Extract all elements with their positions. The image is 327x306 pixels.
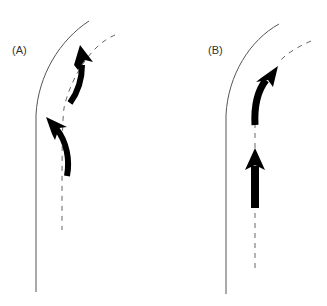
diagram-canvas (0, 0, 327, 306)
panel-b (226, 24, 311, 294)
panel-a (36, 21, 115, 292)
curved-arrow-upper-a (70, 45, 93, 103)
straight-arrow-b (245, 148, 265, 208)
diagram-figure: (A) (B) (0, 0, 327, 306)
curved-arrow-b (255, 66, 278, 125)
centerline-a (62, 35, 115, 230)
panel-label-a: (A) (12, 44, 27, 56)
panel-label-b: (B) (208, 44, 223, 56)
curved-arrow-lower-a (46, 117, 68, 176)
centerline-b (255, 41, 311, 270)
